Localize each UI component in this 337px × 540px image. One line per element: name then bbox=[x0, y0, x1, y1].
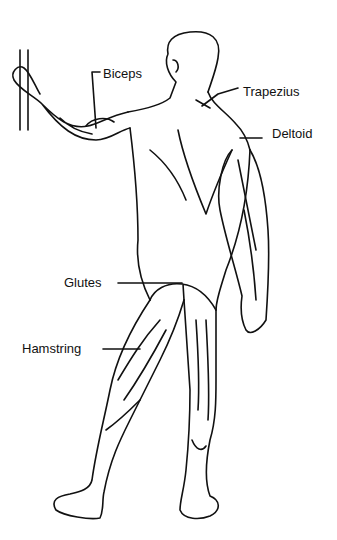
label-biceps: Biceps bbox=[103, 67, 142, 80]
leader-lines bbox=[92, 72, 262, 349]
label-hamstring: Hamstring bbox=[22, 342, 81, 355]
label-glutes: Glutes bbox=[64, 276, 102, 289]
lat-line bbox=[150, 150, 186, 200]
glutes-outline bbox=[150, 284, 216, 310]
right-calf-lines bbox=[192, 320, 209, 449]
ear bbox=[173, 60, 178, 72]
hanging-arm bbox=[219, 150, 269, 332]
label-trapezius: Trapezius bbox=[243, 85, 300, 98]
left-hamstring-lines bbox=[106, 320, 166, 430]
muscle-figure-drawing bbox=[0, 0, 337, 540]
trapezius-outline bbox=[208, 92, 250, 150]
label-deltoid: Deltoid bbox=[272, 127, 312, 140]
back-muscle-lines bbox=[178, 130, 232, 214]
right-leg bbox=[180, 300, 218, 518]
